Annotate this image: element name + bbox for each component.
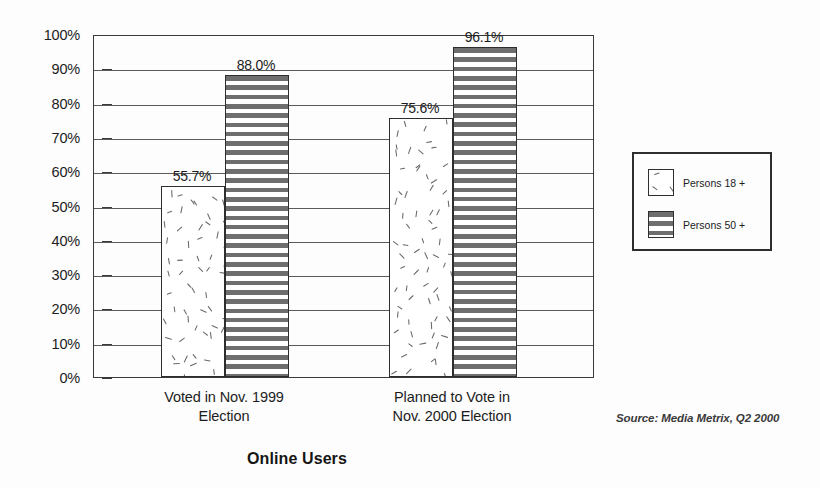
- y-tick-label: 50%: [28, 200, 80, 215]
- bar-persons-18-group-0: [161, 186, 225, 377]
- bar-value-label: 55.7%: [152, 169, 232, 183]
- legend-swatch-horizontal-stripes-icon: [648, 211, 674, 238]
- bar-value-label: 88.0%: [216, 58, 296, 72]
- y-tick-label: 40%: [28, 234, 80, 249]
- y-axis: 100%90%80%70%60%50%40%30%20%10%0%: [20, 35, 80, 378]
- plot-area: [93, 35, 594, 378]
- legend-swatch-scattered-dashes-icon: [648, 169, 674, 196]
- x-category-label: Planned to Vote in Nov. 2000 Election: [343, 388, 561, 426]
- x-category-label: Voted in Nov. 1999 Election: [115, 388, 333, 426]
- source-note: Source: Media Metrix, Q2 2000: [616, 412, 779, 424]
- legend-item-label: Persons 50 +: [683, 219, 745, 231]
- legend-item-persons-18: Persons 18 +: [648, 169, 745, 196]
- chart-page: 100%90%80%70%60%50%40%30%20%10%0% Voted …: [0, 0, 820, 488]
- bar-persons-50-group-0: [225, 75, 289, 377]
- y-tick-label: 20%: [28, 302, 80, 317]
- legend: Persons 18 + Persons 50 +: [632, 152, 772, 251]
- y-tick-label: 80%: [28, 97, 80, 112]
- gridline: [94, 139, 593, 140]
- y-tick-label: 70%: [28, 131, 80, 146]
- bar-persons-18-group-1: [389, 118, 453, 377]
- gridline: [94, 70, 593, 71]
- y-tick-label: 100%: [28, 28, 80, 43]
- y-tick-label: 0%: [28, 371, 80, 386]
- y-tick-label: 30%: [28, 268, 80, 283]
- bar-value-label: 75.6%: [380, 101, 460, 115]
- bar-value-label: 96.1%: [444, 30, 524, 44]
- chart-title: Online Users: [0, 450, 594, 468]
- legend-item-persons-50: Persons 50 +: [648, 211, 745, 238]
- y-tick-mark: [102, 378, 112, 379]
- y-tick-label: 90%: [28, 62, 80, 77]
- legend-item-label: Persons 18 +: [683, 177, 745, 189]
- y-tick-label: 10%: [28, 337, 80, 352]
- gridline: [94, 105, 593, 106]
- bar-persons-50-group-1: [453, 47, 517, 377]
- y-tick-label: 60%: [28, 165, 80, 180]
